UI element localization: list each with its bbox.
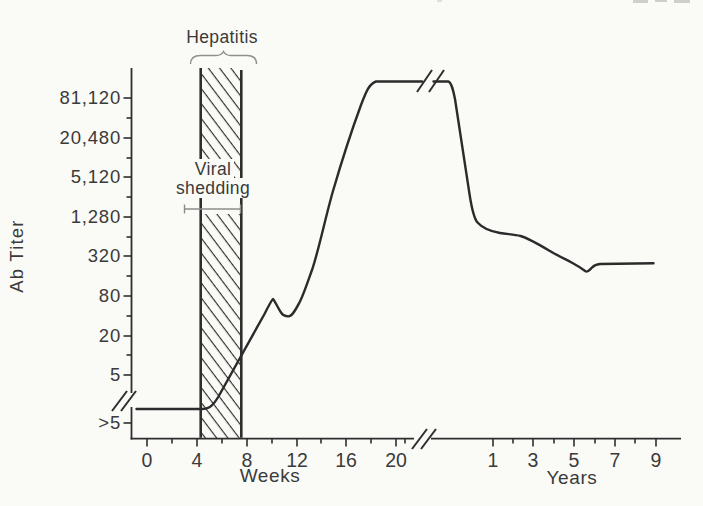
figure-page: 81,120 20,480 5,120 1,280 320 80 20 5 >5…	[0, 0, 703, 506]
hepatitis-band-hatching	[202, 68, 240, 438]
x-tick-label-week-16: 16	[324, 450, 368, 470]
x-tick-label-year-7: 7	[593, 450, 637, 470]
hepatitis-brace-icon	[191, 52, 257, 65]
x-tick-label-week-20: 20	[374, 450, 418, 470]
weeks-axis-label: Weeks	[210, 466, 330, 486]
y-tick-label-320: 320	[30, 246, 121, 266]
y-tick-label-5: 5	[30, 365, 121, 385]
y-tick-label-81120: 81,120	[30, 88, 121, 108]
viral-shedding-label-line2: shedding	[161, 179, 265, 198]
x-tick-label-year-9: 9	[634, 450, 678, 470]
page-crop-artifact	[437, 0, 442, 2]
viral-shedding-label-line2-text: shedding	[173, 178, 253, 198]
page-crop-artifact	[655, 0, 667, 2]
page-crop-artifact	[633, 0, 648, 3]
y-tick-label-80: 80	[30, 286, 121, 306]
band-text-whiteout	[183, 198, 240, 214]
years-axis-label: Years	[512, 468, 632, 488]
x-axis-ticks	[147, 439, 656, 447]
y-axis-ticks	[124, 98, 132, 423]
y-tick-label-20: 20	[30, 326, 121, 346]
x-tick-label-week-0: 0	[125, 450, 169, 470]
x-tick-label-year-1: 1	[471, 450, 515, 470]
y-tick-label-5120: 5,120	[30, 167, 121, 187]
page-crop-artifact	[674, 0, 690, 3]
y-tick-label-1280: 1,280	[30, 207, 121, 227]
viral-shedding-label-line1: Viral	[163, 160, 263, 179]
y-tick-label-20480: 20,480	[30, 128, 121, 148]
y-tick-label-gt5: >5	[30, 413, 121, 433]
hepatitis-band	[183, 68, 241, 438]
y-axis-title: Ab Titer	[7, 197, 27, 315]
viral-shedding-label-line1-text: Viral	[192, 159, 235, 179]
hepatitis-label: Hepatitis	[162, 28, 282, 47]
